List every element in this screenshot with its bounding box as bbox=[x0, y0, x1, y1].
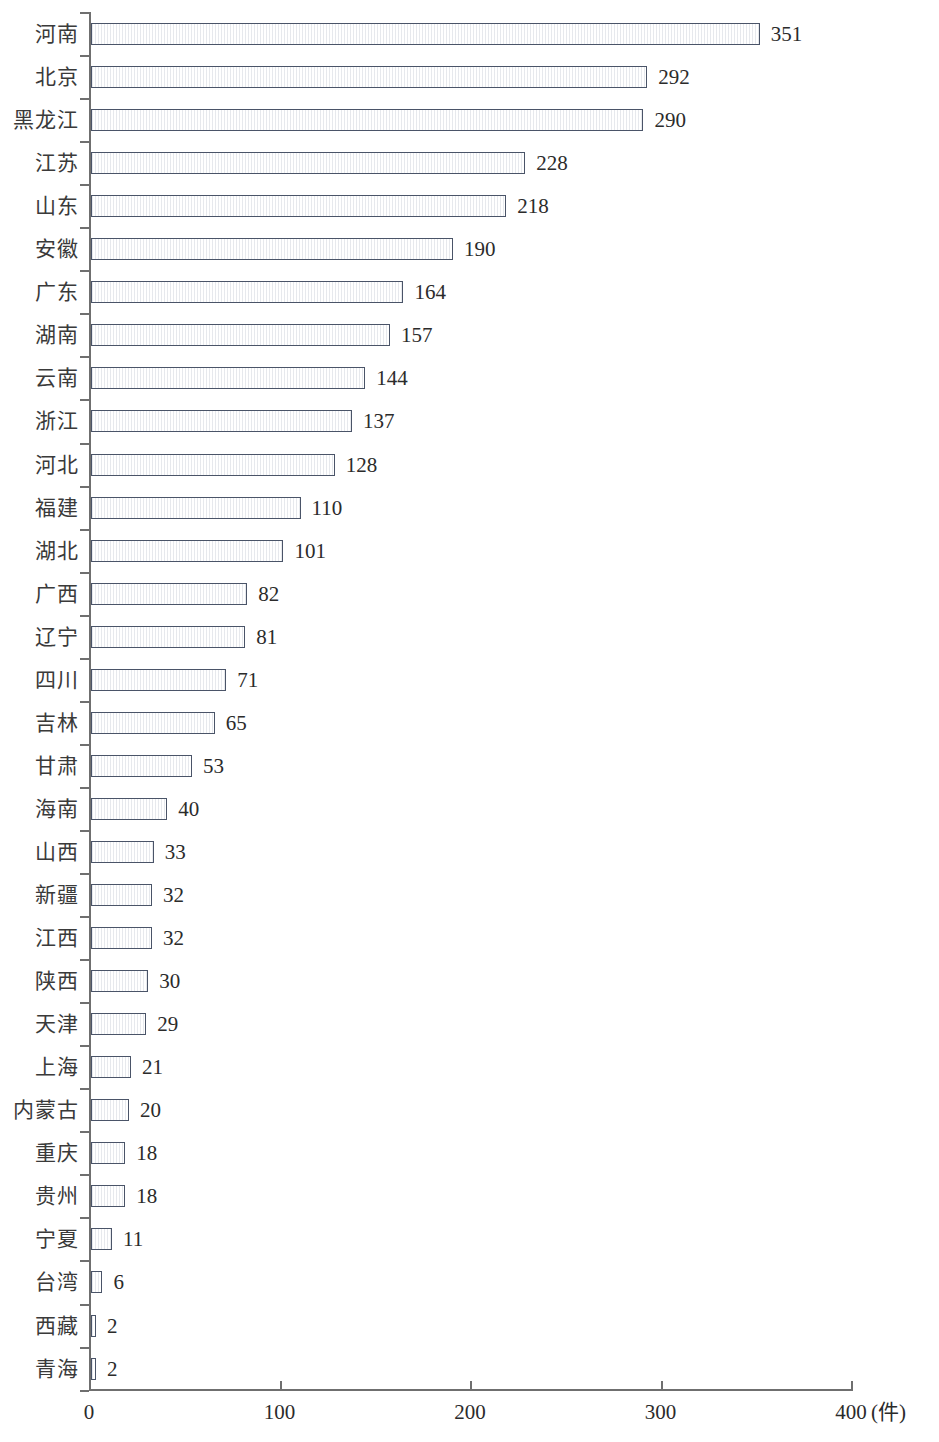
bar-value-label: 18 bbox=[136, 1186, 157, 1207]
bar-row: 广西82 bbox=[0, 572, 939, 616]
bar-row: 浙江137 bbox=[0, 399, 939, 443]
category-label: 内蒙古 bbox=[13, 1100, 79, 1121]
bar-value-label: 82 bbox=[258, 583, 279, 604]
bar-row: 河南351 bbox=[0, 12, 939, 56]
category-label: 上海 bbox=[35, 1057, 79, 1078]
bar-value-label: 32 bbox=[163, 885, 184, 906]
x-axis-tick-label: 300 bbox=[645, 1402, 677, 1423]
bar-value-label: 351 bbox=[771, 24, 803, 45]
category-label: 浙江 bbox=[35, 411, 79, 432]
bar bbox=[91, 669, 226, 691]
bar-fill bbox=[91, 1358, 96, 1380]
bar-row: 天津29 bbox=[0, 1002, 939, 1046]
category-label: 甘肃 bbox=[35, 755, 79, 776]
bar-row: 台湾6 bbox=[0, 1260, 939, 1304]
bar-row: 上海21 bbox=[0, 1045, 939, 1089]
bar-value-label: 190 bbox=[464, 239, 496, 260]
bar bbox=[91, 927, 152, 949]
x-axis-tick-label: 400 bbox=[835, 1402, 867, 1423]
bar bbox=[91, 1142, 125, 1164]
category-label: 安徽 bbox=[35, 239, 79, 260]
bar bbox=[91, 798, 167, 820]
bar bbox=[91, 109, 643, 131]
bar-row: 江苏228 bbox=[0, 141, 939, 185]
bar-fill bbox=[91, 1142, 125, 1164]
bar-value-label: 71 bbox=[237, 669, 258, 690]
bar-value-label: 33 bbox=[165, 841, 186, 862]
bar-value-label: 30 bbox=[159, 971, 180, 992]
bar-row: 云南144 bbox=[0, 356, 939, 400]
bar bbox=[91, 454, 335, 476]
bar-fill bbox=[91, 1271, 102, 1293]
bar bbox=[91, 755, 192, 777]
bar-row: 湖北101 bbox=[0, 529, 939, 573]
bar-fill bbox=[91, 970, 148, 992]
category-label: 广东 bbox=[35, 282, 79, 303]
bar-fill bbox=[91, 540, 283, 562]
bar-value-label: 81 bbox=[256, 626, 277, 647]
bar-fill bbox=[91, 195, 506, 217]
bar-row: 黑龙江290 bbox=[0, 98, 939, 142]
bar-value-label: 20 bbox=[140, 1100, 161, 1121]
category-label: 江西 bbox=[35, 928, 79, 949]
bar-row: 安徽190 bbox=[0, 227, 939, 271]
category-label: 黑龙江 bbox=[13, 110, 79, 131]
bar-value-label: 65 bbox=[226, 712, 247, 733]
bar bbox=[91, 152, 525, 174]
bar-fill bbox=[91, 324, 390, 346]
bar-value-label: 228 bbox=[536, 153, 568, 174]
bar bbox=[91, 970, 148, 992]
bar-fill bbox=[91, 755, 192, 777]
bar-row: 四川71 bbox=[0, 658, 939, 702]
category-label: 山西 bbox=[35, 841, 79, 862]
bar-row: 湖南157 bbox=[0, 313, 939, 357]
bar bbox=[91, 324, 390, 346]
bar bbox=[91, 195, 506, 217]
category-label: 山东 bbox=[35, 196, 79, 217]
bar bbox=[91, 1185, 125, 1207]
bar bbox=[91, 23, 760, 45]
bar-fill bbox=[91, 583, 247, 605]
bar-row: 新疆32 bbox=[0, 873, 939, 917]
x-axis-tick-label: 0 bbox=[84, 1402, 95, 1423]
bar-value-label: 128 bbox=[346, 454, 378, 475]
bar-row: 山东218 bbox=[0, 184, 939, 228]
category-label: 河北 bbox=[35, 454, 79, 475]
bar-row: 宁夏11 bbox=[0, 1217, 939, 1261]
bar-row: 山西33 bbox=[0, 830, 939, 874]
category-label: 北京 bbox=[35, 67, 79, 88]
bar-fill bbox=[91, 367, 365, 389]
bar-fill bbox=[91, 841, 154, 863]
horizontal-bar-chart: 河南351北京292黑龙江290江苏228山东218安徽190广东164湖南15… bbox=[0, 0, 939, 1442]
bar-value-label: 157 bbox=[401, 325, 433, 346]
category-label: 湖南 bbox=[35, 325, 79, 346]
bar bbox=[91, 1315, 96, 1337]
bar-fill bbox=[91, 712, 215, 734]
bar-row: 西藏2 bbox=[0, 1304, 939, 1348]
bar-fill bbox=[91, 1056, 131, 1078]
bar bbox=[91, 1228, 112, 1250]
bar-row: 贵州18 bbox=[0, 1174, 939, 1218]
bar bbox=[91, 1056, 131, 1078]
bar-value-label: 40 bbox=[178, 798, 199, 819]
bar-fill bbox=[91, 66, 647, 88]
category-label: 湖北 bbox=[35, 540, 79, 561]
bar bbox=[91, 410, 352, 432]
bar-fill bbox=[91, 927, 152, 949]
bar-row: 内蒙古20 bbox=[0, 1088, 939, 1132]
bar-value-label: 32 bbox=[163, 928, 184, 949]
bar-row: 重庆18 bbox=[0, 1131, 939, 1175]
bar bbox=[91, 497, 301, 519]
bar-row: 北京292 bbox=[0, 55, 939, 99]
bar-fill bbox=[91, 798, 167, 820]
bar-fill bbox=[91, 23, 760, 45]
category-label: 广西 bbox=[35, 583, 79, 604]
bar bbox=[91, 626, 245, 648]
bar-value-label: 21 bbox=[142, 1057, 163, 1078]
bar-fill bbox=[91, 626, 245, 648]
bar-fill bbox=[91, 884, 152, 906]
category-label: 天津 bbox=[35, 1014, 79, 1035]
bar-value-label: 292 bbox=[658, 67, 690, 88]
bar-value-label: 101 bbox=[294, 540, 326, 561]
x-axis-unit-label: (件) bbox=[871, 1402, 906, 1423]
